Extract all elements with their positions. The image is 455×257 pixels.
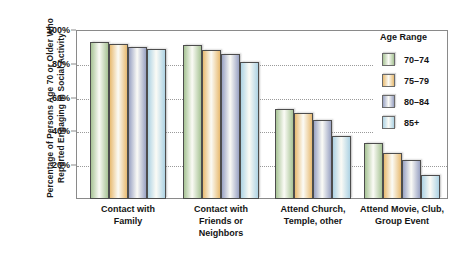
x-axis-label: Attend Movie, Club,Group Event [347,203,455,227]
legend-item[interactable]: 70–74 [382,50,448,69]
legend: Age Range 70–7475–7980–8485+ [374,31,447,137]
legend-swatch [382,74,395,87]
bar[interactable] [402,160,421,199]
x-axis-label-line: Attend Movie, Club, [347,203,455,215]
y-tick-label: 80% [36,59,70,69]
bar-chart: Percentage of Persons Age 70 or Older Wh… [0,0,455,257]
bar[interactable] [240,62,259,199]
bar-group [90,30,166,199]
bar[interactable] [128,47,147,199]
bar[interactable] [183,45,202,199]
bar-group [183,30,259,199]
bar[interactable] [221,54,240,199]
legend-title: Age Range [380,32,427,42]
bar[interactable] [421,175,440,199]
y-tick-label: 100% [36,25,70,35]
y-tick-label: 60% [36,93,70,103]
y-tick-label: 20% [36,160,70,170]
bar[interactable] [109,44,128,199]
y-tick-label: 40% [36,126,70,136]
legend-swatch [382,53,395,66]
x-axis-labels: Contact withFamilyContact withFriends or… [76,203,448,257]
x-axis-label-line: Neighbors [166,227,276,239]
bar[interactable] [364,143,383,199]
legend-swatch [382,116,395,129]
bar[interactable] [90,42,109,199]
bar[interactable] [147,49,166,199]
legend-swatch [382,95,395,108]
bar[interactable] [332,136,351,199]
legend-item[interactable]: 75–79 [382,71,448,90]
legend-label: 85+ [404,118,419,128]
bar[interactable] [202,50,221,199]
x-axis-label-line: Group Event [347,215,455,227]
legend-label: 80–84 [404,97,429,107]
legend-item[interactable]: 80–84 [382,92,448,111]
bar-group [275,30,351,199]
legend-label: 75–79 [404,76,429,86]
bar[interactable] [275,109,294,199]
legend-item[interactable]: 85+ [382,113,448,132]
legend-label: 70–74 [404,55,429,65]
bar[interactable] [383,153,402,199]
bar[interactable] [294,113,313,199]
bar[interactable] [313,120,332,199]
